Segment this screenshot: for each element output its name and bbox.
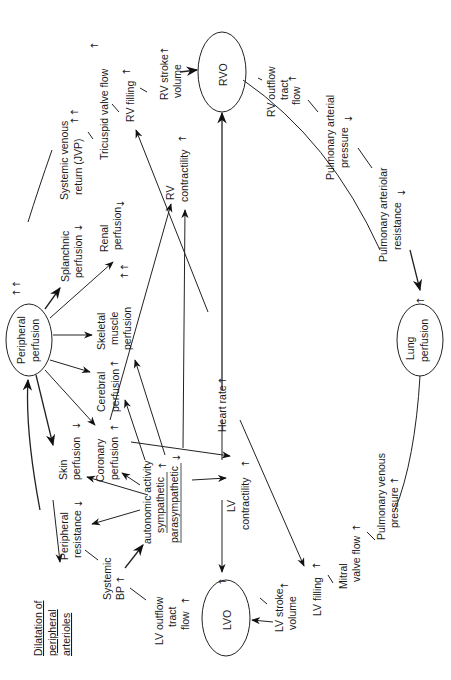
pulmonary-venous-pressure: Pulmonary venous pressure ↑	[375, 453, 400, 540]
svg-text:Pulmonary arterial: Pulmonary arterial	[324, 95, 336, 180]
peripheral-perfusion-node: Peripheral perfusion	[6, 304, 52, 376]
rvo-label: RVO	[217, 63, 229, 86]
svg-text:BP: BP	[114, 586, 126, 600]
svg-text:↓: ↓	[115, 200, 126, 208]
lvo-label: LVO	[221, 610, 233, 630]
svg-text:↓: ↓	[73, 224, 84, 232]
svg-text:↑: ↑	[389, 477, 400, 485]
svg-text:perfusion: perfusion	[111, 207, 123, 250]
svg-text:Systemic: Systemic	[101, 557, 113, 600]
heart-rate: Heart rate ↑	[216, 377, 228, 432]
lung-label-2: perfusion	[418, 319, 430, 362]
svg-text:perfusion: perfusion	[109, 369, 121, 412]
lung-node: Lung perfusion	[397, 304, 443, 376]
lv-filling: LV filling ↑	[311, 562, 323, 616]
svg-text:↓: ↓	[171, 454, 182, 462]
svg-text:↓: ↓	[396, 189, 407, 197]
svg-text:perfusion: perfusion	[70, 437, 82, 480]
svg-text:LV: LV	[225, 500, 237, 512]
mitral-valve-flow: Mitral valve flow ↑	[337, 524, 362, 589]
svg-text:Mitral: Mitral	[337, 563, 349, 589]
cerebral-perfusion: Cerebral perfusion ↑	[95, 360, 121, 412]
lung-label-1: Lung	[404, 336, 416, 360]
rvo-node: RVO	[198, 32, 246, 112]
svg-text:↑: ↑	[115, 576, 126, 584]
svg-text:peripheral: peripheral	[46, 609, 58, 656]
svg-text:Systemic venous: Systemic venous	[58, 121, 70, 200]
svg-text:parasympathetic: parasympathetic	[168, 466, 180, 543]
svg-text:↑: ↑	[177, 135, 188, 143]
peripheral-label-1: Peripheral	[15, 316, 27, 364]
skin-perfusion: Skin perfusion ↓	[57, 422, 82, 480]
svg-text:↑: ↑	[109, 360, 120, 368]
svg-text:↑: ↑	[351, 524, 362, 532]
skeletal-muscle-perfusion: Skeletal muscle perfusion ↑↑	[95, 263, 133, 350]
svg-text:Skeletal: Skeletal	[95, 313, 107, 350]
pulmonary-arteriolar-resistance: Pulmonary arteriolar resistance ↓	[377, 167, 407, 262]
svg-text:contractility: contractility	[178, 149, 190, 202]
systemic-bp: Systemic BP ↑	[101, 557, 126, 600]
circulation-diagram: RVO LVO Lung perfusion Peripheral perfus…	[0, 0, 451, 680]
svg-text:RV filling: RV filling	[124, 81, 136, 122]
rv-stroke-volume: RV stroke volume ↑	[158, 47, 183, 100]
svg-text:perfusion: perfusion	[108, 437, 120, 480]
svg-text:Dilatation of: Dilatation of	[32, 600, 44, 656]
autonomic-activity: autonomic activity sympathetic parasympa…	[141, 454, 182, 544]
svg-text:↑: ↑	[180, 597, 191, 605]
svg-text:↓: ↓	[71, 422, 82, 430]
svg-text:↑: ↑	[217, 377, 228, 385]
svg-text:↑: ↑	[279, 582, 290, 590]
svg-text:pressure: pressure	[388, 487, 400, 528]
svg-text:LV stroke: LV stroke	[273, 588, 285, 632]
lvo-change: ↑	[217, 578, 228, 586]
lvo-node: LVO	[202, 580, 250, 656]
svg-text:↓: ↓	[343, 115, 354, 123]
svg-text:pressure: pressure	[338, 127, 350, 168]
svg-text:perfusion: perfusion	[72, 235, 84, 278]
svg-text:return (JVP): return (JVP)	[72, 138, 84, 195]
svg-text:volume: volume	[171, 64, 183, 98]
splanchnic-perfusion: Splanchnic perfusion ↓	[59, 224, 84, 282]
svg-text:↑: ↑	[311, 562, 322, 570]
lung-perfusion-change: ↑	[415, 297, 426, 305]
svg-text:Splanchnic: Splanchnic	[59, 231, 71, 282]
svg-text:tract: tract	[166, 606, 178, 627]
svg-text:↑↑: ↑↑	[119, 263, 130, 280]
peripheral-perfusion-changes: ↑↑	[11, 280, 22, 297]
systemic-venous-arc	[28, 150, 52, 222]
rv-filling: RV filling ↑	[121, 68, 136, 122]
svg-text:↑↑: ↑↑	[69, 108, 80, 125]
svg-text:LV outflow: LV outflow	[153, 596, 165, 645]
svg-text:↑: ↑	[287, 75, 298, 83]
svg-text:↑: ↑	[89, 42, 100, 50]
coronary-perfusion: Coronary perfusion ↑	[94, 424, 120, 482]
svg-text:muscle: muscle	[108, 312, 120, 345]
svg-text:autonomic activity: autonomic activity	[141, 460, 153, 544]
peripheral-resistance: Peripheral resistance ↓	[58, 500, 84, 560]
rv-outflow-tract-flow: RV outflow tract flow ↑	[265, 66, 302, 117]
svg-text:Cerebral: Cerebral	[95, 372, 107, 412]
lv-outflow-tract-flow: LV outflow tract flow ↑	[153, 596, 191, 645]
svg-text:↑: ↑	[109, 424, 120, 432]
svg-text:flow: flow	[290, 86, 302, 105]
svg-text:resistance: resistance	[391, 202, 403, 250]
svg-text:perfusion: perfusion	[121, 307, 133, 350]
svg-text:↑: ↑	[157, 462, 168, 470]
peripheral-label-2: perfusion	[29, 319, 41, 362]
lv-contractility: LV contractility ↑	[225, 460, 251, 530]
rvo-to-lung-arc	[243, 80, 380, 250]
lv-stroke-volume: LV stroke volume ↑	[273, 582, 298, 632]
svg-text:↑: ↑	[159, 47, 170, 55]
rv-contractility: RV contractility ↑	[164, 135, 190, 202]
svg-text:volume: volume	[286, 596, 298, 630]
pulmonary-arterial-pressure: Pulmonary arterial pressure ↓	[324, 95, 354, 180]
systemic-venous-return: Systemic venous return (JVP) ↑↑	[58, 108, 84, 200]
resistance-to-peripheral-arrow	[28, 380, 41, 510]
svg-text:Tricuspid valve flow: Tricuspid valve flow	[98, 68, 110, 160]
dilatation-of-peripheral-arterioles: Dilatation of peripheral arterioles	[32, 600, 72, 656]
svg-text:Skin: Skin	[57, 459, 69, 480]
svg-text:RV: RV	[164, 186, 176, 200]
svg-text:Coronary: Coronary	[94, 438, 106, 482]
svg-text:valve flow: valve flow	[350, 535, 362, 582]
svg-text:arterioles: arterioles	[60, 613, 72, 656]
